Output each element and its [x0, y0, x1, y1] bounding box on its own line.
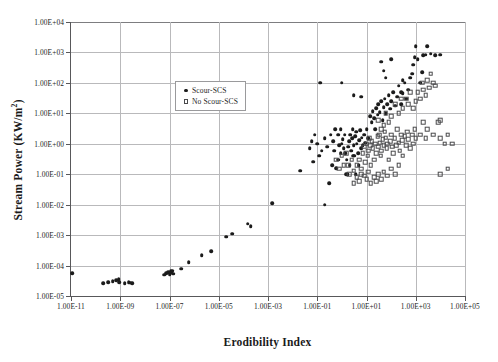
- data-point-scour: [382, 105, 386, 109]
- data-point-scour: [345, 158, 349, 162]
- data-point-no-scour: [408, 90, 413, 95]
- data-point-no-scour: [384, 146, 389, 151]
- y-axis-tick-label: 1.00E-03: [36, 231, 64, 240]
- data-point-no-scour: [351, 181, 356, 186]
- data-point-scour: [384, 76, 388, 80]
- open-square-icon: [180, 99, 192, 103]
- data-point-no-scour: [406, 102, 411, 107]
- data-point-no-scour: [385, 173, 390, 178]
- chart-legend: Scour-SCS No Scour-SCS: [175, 81, 246, 111]
- data-point-scour: [388, 107, 392, 111]
- y-axis-title: Stream Power (KW/m2): [8, 22, 26, 297]
- x-axis-tick: [268, 296, 269, 301]
- data-point-scour: [380, 60, 384, 64]
- data-point-scour: [336, 133, 340, 137]
- data-point-no-scour: [401, 106, 406, 111]
- data-point-scour: [373, 127, 377, 131]
- data-point-no-scour: [450, 141, 455, 146]
- data-point-no-scour: [378, 154, 383, 159]
- data-point-scour: [340, 81, 344, 85]
- data-point-scour: [375, 106, 379, 110]
- y-axis-title-text: Stream Power (KW/m2): [10, 99, 24, 220]
- data-point-scour: [101, 282, 105, 286]
- data-point-scour: [333, 149, 337, 153]
- data-point-no-scour: [431, 132, 436, 137]
- data-point-no-scour: [428, 71, 433, 76]
- data-point-scour: [362, 133, 366, 137]
- data-point-no-scour: [438, 136, 443, 141]
- data-point-no-scour: [438, 118, 443, 123]
- data-point-no-scour: [369, 181, 374, 186]
- data-point-no-scour: [359, 172, 364, 177]
- x-axis-tick: [120, 296, 121, 301]
- chart-figure: Stream Power (KW/m2) 1.00E+041.00E+031.0…: [0, 0, 498, 362]
- data-point-no-scour: [438, 172, 443, 177]
- x-axis-tick: [170, 296, 171, 301]
- data-point-no-scour: [423, 136, 428, 141]
- data-point-scour: [325, 145, 329, 149]
- data-point-scour: [355, 142, 359, 146]
- data-point-no-scour: [418, 97, 423, 102]
- data-point-no-scour: [337, 167, 342, 172]
- data-point-scour: [412, 63, 416, 67]
- data-point-scour: [370, 121, 374, 125]
- data-point-scour: [318, 81, 322, 85]
- data-point-scour: [323, 137, 327, 141]
- data-point-no-scour: [413, 99, 418, 104]
- data-point-scour: [330, 163, 334, 167]
- data-point-no-scour: [376, 118, 381, 123]
- x-axis-tick: [465, 296, 466, 301]
- data-point-scour: [371, 109, 375, 113]
- data-point-scour: [433, 54, 437, 58]
- data-point-no-scour: [357, 157, 362, 162]
- x-axis-title: Erodibility Index: [70, 336, 465, 348]
- data-point-no-scour: [344, 151, 349, 156]
- data-point-no-scour: [425, 78, 430, 83]
- data-point-no-scour: [374, 179, 379, 184]
- data-point-scour: [171, 272, 175, 276]
- data-point-no-scour: [346, 163, 351, 168]
- data-point-scour: [123, 282, 127, 286]
- data-point-no-scour: [420, 81, 425, 86]
- x-axis-tick: [71, 296, 72, 301]
- data-point-scour: [401, 79, 405, 83]
- y-axis-tick-label: 1.00E-01: [36, 170, 64, 179]
- x-axis-tick-label: 1.00E-01: [303, 302, 331, 311]
- x-axis-tick: [317, 296, 318, 301]
- data-point-no-scour: [389, 167, 394, 172]
- data-point-no-scour: [418, 132, 423, 137]
- data-point-no-scour: [411, 106, 416, 111]
- data-point-scour: [298, 169, 302, 173]
- data-point-no-scour: [393, 102, 398, 107]
- x-axis-tick-label: 1.00E-07: [155, 302, 183, 311]
- data-point-no-scour: [445, 167, 450, 172]
- data-point-scour: [179, 267, 183, 271]
- data-point-scour: [408, 76, 412, 80]
- data-point-no-scour: [364, 177, 369, 182]
- data-point-no-scour: [334, 157, 339, 162]
- data-point-no-scour: [415, 90, 420, 95]
- data-point-no-scour: [366, 170, 371, 175]
- data-point-scour: [352, 93, 356, 97]
- data-point-no-scour: [445, 132, 450, 137]
- data-point-scour: [365, 127, 369, 131]
- data-point-no-scour: [423, 93, 428, 98]
- data-point-scour: [308, 147, 312, 151]
- data-point-scour: [340, 142, 344, 146]
- data-point-no-scour: [372, 157, 377, 162]
- legend-item-no-scour: No Scour-SCS: [180, 96, 238, 107]
- data-point-scour: [383, 97, 387, 101]
- data-point-no-scour: [369, 163, 374, 168]
- data-point-no-scour: [395, 127, 400, 132]
- x-axis-tick-label: 1.00E-11: [57, 302, 85, 311]
- data-point-scour: [356, 151, 360, 155]
- data-point-scour: [317, 154, 321, 158]
- data-point-scour: [249, 224, 253, 228]
- data-point-scour: [439, 53, 443, 57]
- data-point-no-scour: [421, 87, 426, 92]
- data-point-scour: [200, 253, 204, 257]
- data-point-no-scour: [406, 137, 411, 142]
- data-point-no-scour: [351, 168, 356, 173]
- x-axis-tick: [416, 296, 417, 301]
- data-point-no-scour: [397, 148, 402, 153]
